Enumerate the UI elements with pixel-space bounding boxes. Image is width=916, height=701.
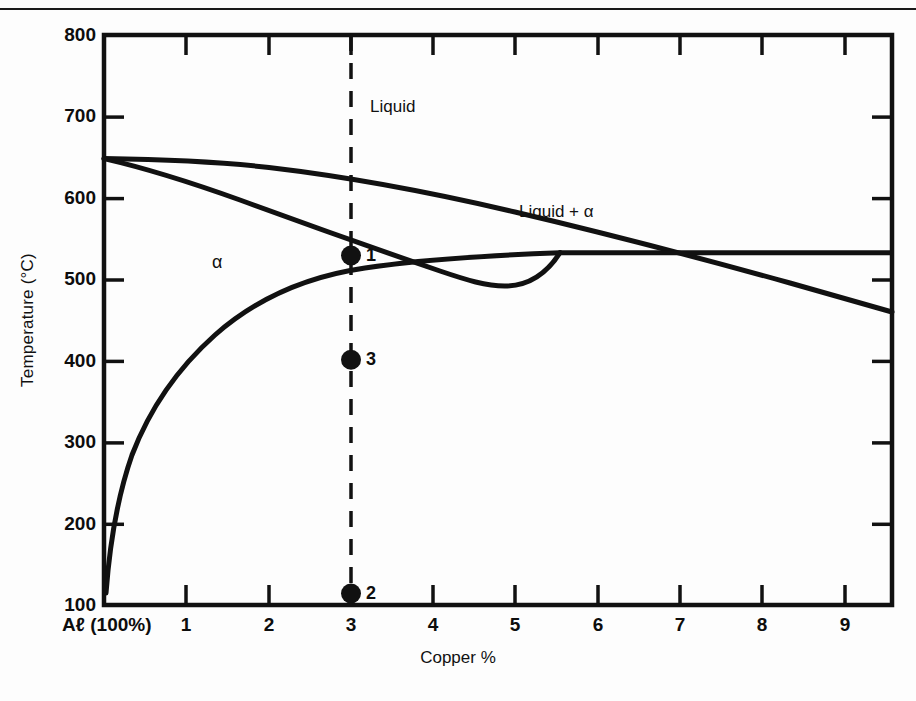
xtick-label-3: 3 [346,614,357,636]
point-label-3: 3 [366,349,376,370]
data-point-3[interactable] [341,350,361,370]
xtick-label-9: 9 [840,614,851,636]
point-label-2: 2 [366,583,376,604]
phase-label-liquid-plus-alpha: Liquid + α [519,202,594,222]
xtick-label-1: 1 [181,614,192,636]
data-point-2[interactable] [341,584,361,604]
ytick-label-600: 600 [36,187,96,209]
ytick-label-200: 200 [36,513,96,535]
xtick-label-origin: Aℓ (100%) [62,614,152,636]
ytick-label-100: 100 [36,594,96,616]
ytick-label-400: 400 [36,350,96,372]
phase-label-alpha: α [212,252,222,273]
ytick-label-700: 700 [36,105,96,127]
phase-diagram-plot [0,0,916,701]
xtick-label-2: 2 [264,614,275,636]
phase-label-liquid: Liquid [370,97,415,117]
xtick-label-5: 5 [510,614,521,636]
xtick-label-6: 6 [593,614,604,636]
point-label-1: 1 [366,245,376,266]
y-axis-title: Temperature (°C) [18,240,38,400]
ytick-label-800: 800 [36,24,96,46]
xtick-label-8: 8 [757,614,768,636]
y-axis-ticks-left [104,117,124,524]
xtick-label-7: 7 [675,614,686,636]
ytick-label-500: 500 [36,268,96,290]
xtick-label-4: 4 [428,614,439,636]
plot-frame [104,35,892,605]
y-axis-ticks-right [872,117,892,524]
x-axis-ticks-top [186,35,845,55]
liquidus-curve [104,159,892,312]
ytick-label-300: 300 [36,431,96,453]
data-point-1[interactable] [341,246,361,266]
x-axis-title: Copper % [0,648,916,668]
solvus-curve [106,253,560,593]
x-axis-ticks-bottom [186,585,845,605]
figure-page: 800 700 600 500 400 300 200 100 Aℓ (100%… [0,0,916,701]
